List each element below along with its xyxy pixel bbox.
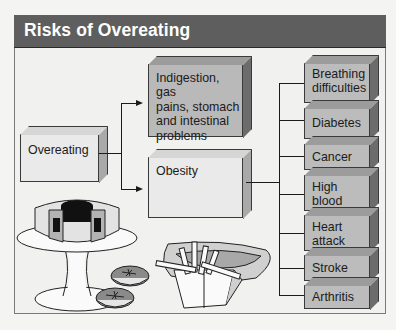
diagram-title: Risks of Overeating [24,20,190,41]
node-cancer: Cancer [304,144,370,170]
node-label-line: Obesity [156,164,242,178]
connector [279,156,304,157]
node-indigestion: Indigestion, gas pains, stomach and inte… [148,64,243,137]
node-high-blood-pressure: High blood pressure [304,175,370,211]
node-overeating: Overeating [20,134,99,182]
node-label-line: attack [312,234,369,248]
node-heart-attack: Heart attack [304,215,370,251]
connector [279,83,280,295]
title-bar: Risks of Overeating [14,15,386,48]
node-label-line: High blood [312,180,369,209]
node-label-line: problems [156,129,242,143]
node-label-line: Cancer [312,150,369,164]
node-label-line: Diabetes [312,116,369,130]
node-breathing-difficulties: Breathing difficulties [304,63,370,103]
connector [279,233,304,234]
node-label-line: difficulties [312,81,369,95]
node-label-line: Arthritis [312,290,369,304]
node-diabetes: Diabetes [304,108,370,139]
arrow-icon [136,186,143,192]
connector [121,189,137,190]
cookies-illustration [92,262,152,322]
node-arthritis: Arthritis [304,285,370,309]
node-label-line: pains, stomach [156,100,242,114]
connector [279,194,304,195]
connector [279,295,304,296]
node-label-line: Breathing [312,67,369,81]
connector [121,103,137,104]
node-label: Overeating [28,143,89,157]
node-obesity: Obesity [148,157,243,218]
connector [279,268,304,269]
connector [121,103,122,190]
node-label-line: and intestinal [156,114,242,128]
connector [99,153,121,154]
node-label-line: Heart [312,220,369,234]
connector [279,120,304,121]
node-label-line: Indigestion, gas [156,71,242,100]
node-label-line: Stroke [312,261,369,275]
arrow-icon [136,100,143,106]
connector [279,83,304,84]
connector [246,182,280,183]
fast-food-illustration [146,238,276,313]
